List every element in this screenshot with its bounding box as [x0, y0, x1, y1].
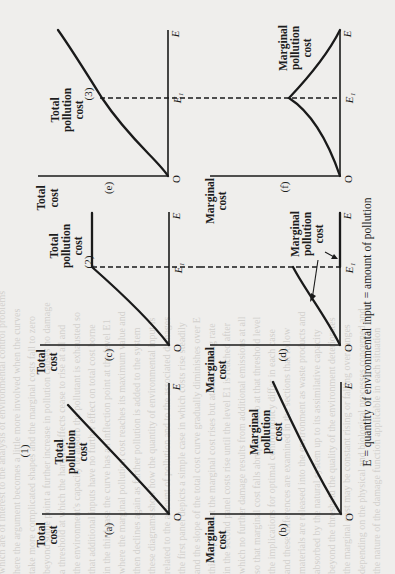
svg-text:(b): (b)	[276, 523, 289, 536]
svg-text:E: E	[170, 212, 182, 220]
svg-text:Total: Total	[48, 233, 60, 258]
column-1-label: (1)	[18, 444, 31, 457]
svg-text:E: E	[169, 30, 181, 38]
svg-text:the first panel depicts a simp: the first panel depicts a simple case in…	[176, 322, 187, 574]
svg-text:E₁: E₁	[172, 263, 184, 275]
svg-text:Total: Total	[53, 439, 65, 464]
svg-text:Total: Total	[49, 97, 61, 122]
svg-text:O: O	[170, 175, 182, 183]
svg-text:O: O	[171, 344, 183, 352]
svg-text:where the marginal pollution c: where the marginal pollution cost reache…	[116, 311, 127, 574]
svg-text:Total: Total	[35, 349, 47, 374]
svg-text:(d): (d)	[276, 348, 289, 361]
svg-text:E₁: E₁	[171, 93, 183, 105]
panel-f-marginal-cost-peak: O E E₁ (f) Marginal cost Marginal pollut…	[196, 25, 355, 224]
svg-text:beyond the threshold the quali: beyond the threshold the quality of the …	[326, 317, 337, 574]
rotated-figure-page: characteristics of the total pollution c…	[0, 0, 395, 574]
svg-text:related to the amount of pollu: related to the amount of pollution and t…	[161, 317, 172, 574]
svg-text:Total: Total	[35, 522, 47, 547]
svg-text:E = quantity of environmental: E = quantity of environmental input = am…	[361, 197, 374, 466]
svg-text:cost: cost	[47, 352, 59, 371]
arrow-to-curve	[312, 260, 318, 300]
svg-text:O: O	[343, 513, 355, 521]
svg-text:E: E	[341, 30, 353, 38]
svg-text:cost: cost	[47, 525, 59, 544]
svg-text:and the slope of the total cos: and the slope of the total cost curve gr…	[191, 317, 202, 574]
svg-text:cost: cost	[73, 100, 85, 119]
svg-text:cost: cost	[272, 422, 284, 441]
svg-text:E: E	[342, 382, 354, 390]
svg-text:absorbed by the natural system: absorbed by the natural system up to its…	[311, 329, 322, 574]
svg-text:E₁: E₁	[343, 263, 355, 275]
svg-text:cost: cost	[216, 191, 228, 210]
svg-text:cost: cost	[216, 360, 228, 379]
svg-text:cost: cost	[313, 224, 325, 243]
svg-text:here the argument becomes a li: here the argument becomes a little more …	[11, 309, 22, 574]
svg-text:E₁: E₁	[343, 93, 355, 105]
svg-text:the marginal cost may be const: the marginal cost may be constant rising…	[341, 324, 352, 574]
svg-text:then declines again as further: then declines again as further pollution…	[131, 327, 142, 574]
svg-text:cost: cost	[216, 530, 228, 549]
svg-text:(1): (1)	[18, 444, 31, 457]
svg-text:E: E	[341, 212, 353, 220]
column-3-label: (3)	[82, 87, 95, 100]
svg-text:(e): (e)	[102, 182, 115, 195]
svg-text:O: O	[342, 175, 354, 183]
svg-text:cost: cost	[301, 38, 313, 57]
svg-text:cost: cost	[48, 188, 60, 207]
svg-text:cost: cost	[77, 442, 89, 461]
svg-text:O: O	[171, 513, 183, 521]
svg-text:(f): (f)	[278, 181, 291, 192]
figure-caption: E = quantity of environmental input = am…	[361, 197, 374, 466]
panel-e-total-cost-s-curve: O E E₁ (e) Total cost Total pollution co…	[35, 30, 196, 211]
svg-text:O: O	[342, 344, 354, 352]
svg-text:'(a): '(a)	[102, 523, 115, 538]
svg-text:cost: cost	[72, 236, 84, 255]
svg-text:(c): (c)	[102, 349, 115, 362]
arrow-head-icon	[331, 254, 338, 259]
svg-text:E: E	[170, 383, 182, 391]
svg-text:these diagrams show how the qu: these diagrams show how the quantity of …	[146, 318, 157, 574]
svg-text:which are of interest to the a: which are of interest to the analysis of…	[0, 291, 7, 574]
svg-text:which no further damage result: which no further damage results from add…	[236, 316, 247, 574]
svg-text:Total: Total	[35, 185, 47, 210]
svg-text:(3): (3)	[82, 87, 95, 100]
